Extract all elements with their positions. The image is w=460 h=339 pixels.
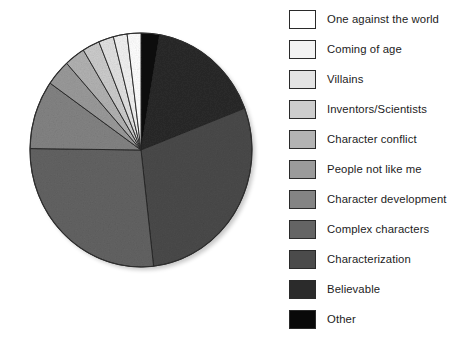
legend-swatch (289, 310, 316, 329)
legend-item-label: Inventors/Scientists (327, 103, 427, 116)
legend-item-label: Believable (327, 283, 380, 296)
legend-item-label: People not like me (327, 163, 422, 176)
legend: One against the worldComing of ageVillai… (289, 4, 460, 336)
legend-item[interactable]: People not like me (289, 154, 460, 184)
legend-item-label: Complex characters (327, 223, 429, 236)
legend-item-label: One against the world (327, 13, 439, 26)
legend-swatch (289, 190, 316, 209)
legend-item[interactable]: Other (289, 305, 460, 335)
legend-item-label: Other (327, 313, 356, 326)
legend-swatch (289, 40, 316, 59)
legend-swatch (289, 220, 316, 239)
legend-item[interactable]: Characterization (289, 245, 460, 275)
pie-chart-figure: One against the worldComing of ageVillai… (0, 0, 460, 339)
legend-item[interactable]: Believable (289, 275, 460, 305)
pie-slices-group (30, 33, 252, 267)
legend-swatch (289, 130, 316, 149)
legend-item[interactable]: Villains (289, 64, 460, 94)
legend-item-label: Characterization (327, 253, 411, 266)
pie-chart-area (0, 0, 280, 339)
legend-item-label: Coming of age (327, 43, 402, 56)
legend-item[interactable]: Character conflict (289, 124, 460, 154)
legend-item[interactable]: Inventors/Scientists (289, 94, 460, 124)
legend-swatch (289, 250, 316, 269)
legend-item[interactable]: Complex characters (289, 215, 460, 245)
legend-swatch (289, 70, 316, 89)
legend-swatch (289, 100, 316, 119)
legend-swatch (289, 280, 316, 299)
legend-item-label: Character development (327, 193, 447, 206)
legend-item-label: Villains (327, 73, 363, 86)
legend-item[interactable]: Coming of age (289, 34, 460, 64)
pie-slice[interactable] (30, 149, 154, 267)
legend-item-label: Character conflict (327, 133, 417, 146)
legend-swatch (289, 10, 316, 29)
legend-item[interactable]: Character development (289, 185, 460, 215)
legend-item[interactable]: One against the world (289, 4, 460, 34)
legend-swatch (289, 160, 316, 179)
pie-chart-svg (0, 0, 280, 339)
